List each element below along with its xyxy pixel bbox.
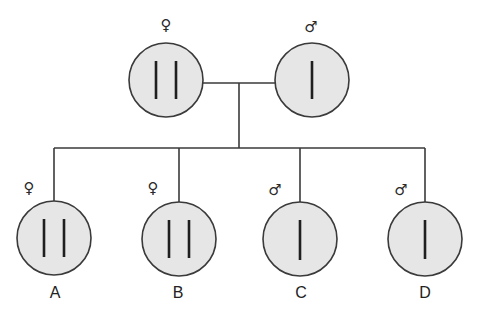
child-d-cell	[388, 202, 462, 276]
child-b-cell	[142, 202, 216, 276]
male-symbol-icon: ♂	[394, 183, 407, 198]
pedigree-diagram	[0, 0, 479, 315]
child-label-a: A	[50, 285, 61, 301]
child-a-cell	[17, 201, 91, 275]
father-cell	[275, 43, 349, 117]
child-label-c: C	[295, 285, 307, 301]
child-c-cell	[263, 202, 337, 276]
child-label-b: B	[173, 285, 184, 301]
female-symbol-icon: ♀	[161, 18, 172, 33]
child-label-d: D	[419, 285, 431, 301]
mother-cell	[129, 43, 203, 117]
female-symbol-icon: ♀	[24, 181, 35, 196]
male-symbol-icon: ♂	[304, 20, 317, 35]
male-symbol-icon: ♂	[268, 183, 281, 198]
female-symbol-icon: ♀	[148, 181, 159, 196]
